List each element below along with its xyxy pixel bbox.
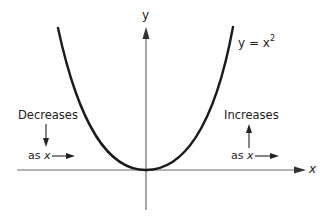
x-axis-arrow-icon xyxy=(294,167,306,174)
up-arrow-icon xyxy=(246,124,252,133)
equation-exponent: 2 xyxy=(270,34,275,43)
decreases-subtitle-var: x xyxy=(44,149,51,162)
equation-text: y = x xyxy=(238,36,270,50)
increases-label: Increases xyxy=(224,110,279,122)
right-arrow-icon xyxy=(270,153,279,159)
decreases-label: Decreases xyxy=(18,110,78,122)
increases-subtitle: as x xyxy=(231,150,253,161)
x-axis-label: x xyxy=(309,163,316,175)
decreases-subtitle-prefix: as xyxy=(28,149,44,162)
right-arrow-icon xyxy=(66,153,75,159)
decreases-subtitle: as x xyxy=(28,150,50,161)
increases-subtitle-prefix: as xyxy=(231,149,247,162)
increases-subtitle-var: x xyxy=(247,149,254,162)
y-axis-arrow-icon xyxy=(143,27,150,39)
y-axis xyxy=(143,27,150,210)
y-axis-label: y xyxy=(142,9,149,21)
equation-label: y = x2 xyxy=(238,35,275,49)
down-arrow-icon xyxy=(43,138,49,147)
